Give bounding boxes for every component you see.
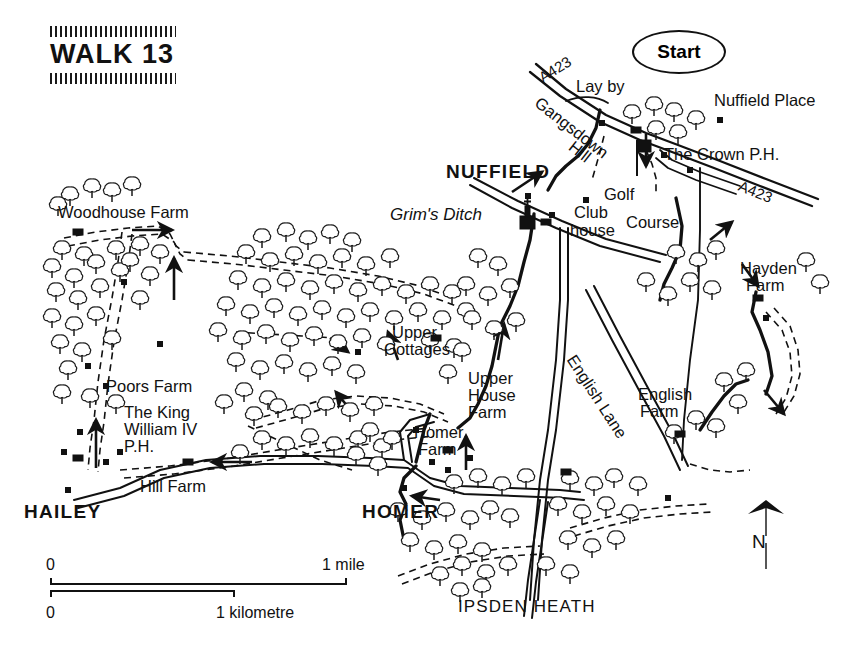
feature-label-king-william-2: William IV [124, 421, 197, 439]
feature-label-homer-farm-1: Homer [414, 424, 464, 442]
scale-miles-start: 0 [46, 556, 55, 573]
feature-label-hayden-farm-2: Farm [746, 277, 785, 295]
feature-label-upper-house-2: House [468, 387, 516, 405]
north-arrow [740, 492, 792, 584]
feature-label-king-william-1: The King [124, 404, 190, 422]
scale-bar-kilometres [50, 590, 235, 597]
feature-label-king-william-3: P.H. [124, 438, 154, 456]
north-label: N [752, 532, 766, 552]
feature-label-club: Club [574, 204, 608, 222]
feature-label-english-farm-1: English [638, 386, 692, 404]
feature-label-hayden-farm-1: Hayden [740, 260, 797, 278]
feature-label-house: house [570, 222, 615, 240]
feature-label-upper-cottages-2: Cottages [384, 341, 450, 359]
start-marker[interactable]: Start [632, 30, 726, 74]
feature-label-upper-house-3: Farm [468, 404, 507, 422]
place-label-ipsden-heath: IPSDEN HEATH [458, 598, 596, 616]
feature-label-nuffield-place: Nuffield Place [714, 92, 816, 110]
walk-map-page: WALK 13 [0, 0, 848, 652]
start-label: Start [657, 41, 700, 63]
scale-bar-miles [50, 578, 347, 585]
feature-label-grims-ditch: Grim's Ditch [390, 206, 482, 224]
feature-label-upper-cottages-1: Upper [392, 324, 437, 342]
feature-label-lay-by: Lay by [576, 78, 625, 96]
feature-label-crown-ph: The Crown P.H. [664, 146, 779, 164]
place-label-hailey: HAILEY [24, 502, 101, 522]
feature-label-golf: Golf [604, 186, 634, 204]
feature-label-upper-house-1: Upper [468, 370, 513, 388]
place-label-homer: HOMER [362, 502, 439, 522]
feature-label-english-farm-2: Farm [640, 403, 679, 421]
feature-label-course: Course [626, 214, 679, 232]
signpost-symbol [637, 140, 651, 176]
scale-km-start: 0 [46, 604, 55, 621]
place-label-nuffield: NUFFIELD [446, 162, 550, 182]
feature-label-hill-farm: Hill Farm [140, 478, 206, 496]
scale-miles-end: 1 mile [322, 556, 365, 573]
scale-km-end: 1 kilometre [216, 604, 294, 621]
feature-label-woodhouse-farm: Woodhouse Farm [58, 204, 189, 222]
feature-label-homer-farm-2: Farm [418, 441, 457, 459]
feature-label-poors-farm: Poors Farm [106, 378, 192, 396]
